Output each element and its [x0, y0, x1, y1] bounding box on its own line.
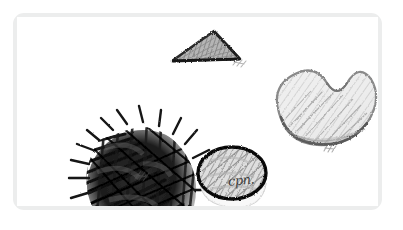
sketch-panel-stage: cpn. — [0, 0, 403, 230]
sketch-svg — [17, 17, 378, 206]
sketch-canvas — [17, 17, 378, 206]
